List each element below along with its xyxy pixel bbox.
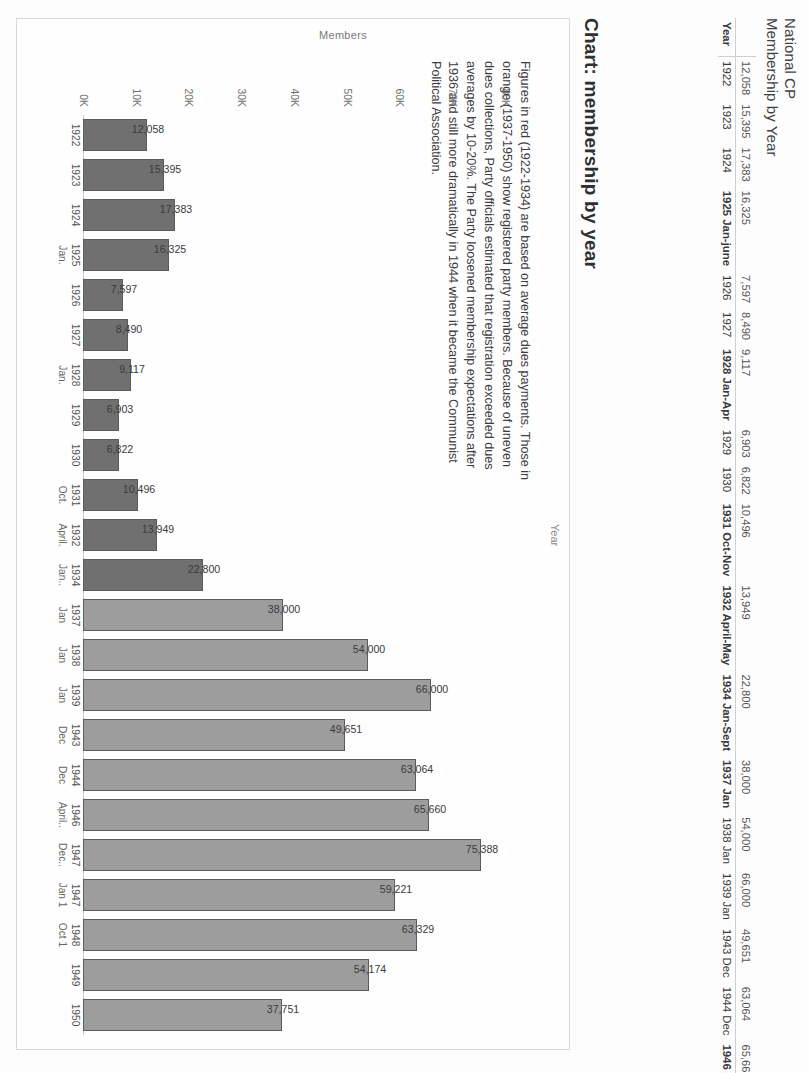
table-value-cell: 17,383 bbox=[736, 144, 757, 187]
bar-value-label: 22,800 bbox=[188, 563, 220, 575]
bar-value-label: 38,000 bbox=[268, 603, 300, 615]
bar[interactable]: 8,490 bbox=[83, 319, 128, 350]
bar-slot: 49,651 bbox=[83, 715, 505, 755]
x-axis-tick: 1932April. bbox=[21, 515, 81, 555]
plot-area: 12,05815,39517,38316,3257,5978,4909,1176… bbox=[83, 115, 505, 1035]
bar-slot: 37,751 bbox=[83, 995, 505, 1035]
bar[interactable]: 59,221 bbox=[83, 879, 395, 910]
bar[interactable]: 9,117 bbox=[83, 359, 131, 390]
bar[interactable]: 22,800 bbox=[83, 559, 203, 590]
table-title: National CP Membership by Year bbox=[762, 18, 799, 173]
y-axis-tick: 0K bbox=[78, 94, 89, 107]
table-col-members-spacer bbox=[736, 18, 757, 57]
bar[interactable]: 54,174 bbox=[83, 959, 369, 990]
bar-value-label: 10,496 bbox=[123, 483, 155, 495]
x-tick-month: Dec.. bbox=[56, 835, 69, 875]
bar[interactable]: 37,751 bbox=[83, 999, 282, 1030]
table-value-cell: 65,660 bbox=[736, 1040, 757, 1073]
x-tick-year: 1928 bbox=[68, 355, 81, 395]
y-axis-tick: 40K bbox=[289, 89, 300, 108]
bar[interactable]: 63,064 bbox=[83, 759, 416, 790]
bar-value-label: 63,329 bbox=[402, 923, 434, 935]
bar[interactable]: 75,388 bbox=[83, 839, 481, 870]
bar-value-label: 8,490 bbox=[116, 323, 143, 335]
bar-slot: 10,496 bbox=[83, 475, 505, 515]
x-tick-month: Jan bbox=[56, 675, 69, 715]
bar[interactable]: 10,496 bbox=[83, 479, 138, 510]
bar-value-label: 54,000 bbox=[353, 643, 385, 655]
bar[interactable]: 17,383 bbox=[83, 199, 175, 230]
x-axis-tick: 1925Jan. bbox=[21, 235, 81, 275]
bar-slot: 8,490 bbox=[83, 315, 505, 355]
table-values-row: 12,05815,39517,38316,3257,5978,4909,1176… bbox=[736, 18, 757, 1073]
x-axis-tick: 1926 bbox=[21, 275, 81, 315]
bar-slot: 63,329 bbox=[83, 915, 505, 955]
x-tick-year: 1943 bbox=[68, 715, 81, 755]
bar-slot: 59,221 bbox=[83, 875, 505, 915]
table-year-cell: 1938 Jan bbox=[718, 813, 736, 869]
table-value-cell: 38,000 bbox=[736, 756, 757, 813]
x-tick-month: Jan. bbox=[56, 355, 69, 395]
bar[interactable]: 49,651 bbox=[83, 719, 345, 750]
bar-slot: 6,822 bbox=[83, 435, 505, 475]
x-axis-tick: 1934Jan.. bbox=[21, 555, 81, 595]
x-axis-tick: 1947Dec.. bbox=[21, 835, 81, 875]
bar[interactable]: 6,822 bbox=[83, 439, 119, 470]
table-year-cell: 1925 Jan-june bbox=[718, 187, 736, 271]
x-tick-month: Oct 1 bbox=[56, 915, 69, 955]
x-axis-tick: 1948Oct 1 bbox=[21, 915, 81, 955]
table-value-cell: 12,058 bbox=[736, 57, 757, 101]
x-tick-year: 1922 bbox=[68, 115, 81, 155]
x-tick-month: Jan.. bbox=[56, 555, 69, 595]
bar-value-label: 75,388 bbox=[465, 843, 497, 855]
bar-value-label: 12,058 bbox=[131, 123, 163, 135]
x-tick-year: 1926 bbox=[68, 275, 81, 315]
bar[interactable]: 7,597 bbox=[83, 279, 123, 310]
x-tick-year: 1950 bbox=[68, 995, 81, 1035]
table-year-cell: 1937 Jan bbox=[718, 756, 736, 813]
x-tick-year: 1930 bbox=[68, 435, 81, 475]
bar[interactable]: 16,325 bbox=[83, 239, 169, 270]
bar-slot: 54,174 bbox=[83, 955, 505, 995]
bar-slot: 7,597 bbox=[83, 275, 505, 315]
bar[interactable]: 6,903 bbox=[83, 399, 119, 430]
table-col-year: Year bbox=[718, 18, 736, 57]
bar-slot: 75,388 bbox=[83, 835, 505, 875]
table-year-cell: 1928 Jan-Apr bbox=[718, 345, 736, 426]
x-tick-year: 1944 bbox=[68, 755, 81, 795]
x-tick-year: 1937 bbox=[68, 595, 81, 635]
bar-value-label: 15,395 bbox=[149, 163, 181, 175]
y-axis: 0K10K20K30K40K50K60K70K80K bbox=[83, 19, 505, 115]
x-axis-tick: 1927 bbox=[21, 315, 81, 355]
chart-block: Chart: membership by year Year Members F… bbox=[9, 10, 604, 1060]
x-axis-tick: 1944Dec bbox=[21, 755, 81, 795]
bar-slot: 9,117 bbox=[83, 355, 505, 395]
x-tick-year: 1925 bbox=[68, 235, 81, 275]
table-value-cell: 9,117 bbox=[736, 345, 757, 426]
bar[interactable]: 63,329 bbox=[83, 919, 417, 950]
x-axis-tick: 1923 bbox=[21, 155, 81, 195]
bar[interactable]: 54,000 bbox=[83, 639, 368, 670]
x-axis-tick: 1938Jan bbox=[21, 635, 81, 675]
x-tick-month: Jan bbox=[56, 635, 69, 675]
table-year-cell: 1927 bbox=[718, 308, 736, 345]
bar[interactable]: 65,660 bbox=[83, 799, 429, 830]
x-tick-month: Dec bbox=[56, 715, 69, 755]
bar[interactable]: 15,395 bbox=[83, 159, 164, 190]
bar-slot: 12,058 bbox=[83, 115, 505, 155]
bar[interactable]: 13,949 bbox=[83, 519, 157, 550]
bar-slot: 22,800 bbox=[83, 555, 505, 595]
bar[interactable]: 12,058 bbox=[83, 119, 147, 150]
rotated-scan-stage: National CP Membership by Year 12,05815,… bbox=[0, 0, 809, 1073]
chart-heading: Chart: membership by year bbox=[580, 18, 602, 269]
membership-table-block: National CP Membership by Year 12,05815,… bbox=[718, 18, 799, 1058]
bar-slot: 66,000 bbox=[83, 675, 505, 715]
bar[interactable]: 66,000 bbox=[83, 679, 431, 710]
bar-value-label: 13,949 bbox=[141, 523, 173, 535]
x-tick-year: 1948 bbox=[68, 915, 81, 955]
bar-value-label: 37,751 bbox=[267, 1003, 299, 1015]
x-axis-tick: 1931Oct. bbox=[21, 475, 81, 515]
bar-slot: 38,000 bbox=[83, 595, 505, 635]
bar[interactable]: 38,000 bbox=[83, 599, 283, 630]
x-tick-month: Jan 1 bbox=[56, 875, 69, 915]
